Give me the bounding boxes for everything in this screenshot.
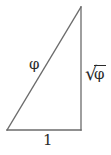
radicand-phi: φ: [94, 65, 106, 82]
hypotenuse-label-phi: φ: [29, 57, 40, 72]
geometry-figure: φ √φ 1: [0, 0, 111, 155]
triangle-hypotenuse-line: [7, 7, 81, 130]
vertical-side-label-sqrt-phi: √φ: [85, 64, 106, 83]
base-label-one: 1: [43, 133, 53, 148]
radical-group: √φ: [85, 64, 106, 83]
